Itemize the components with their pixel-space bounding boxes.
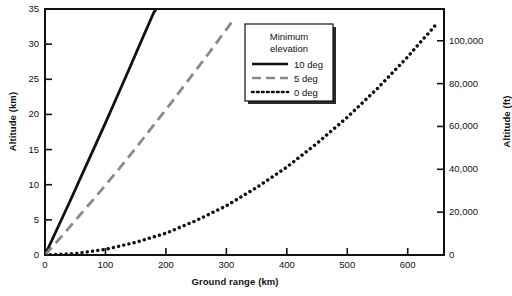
y-left-tick-label-3: 15 [9, 144, 39, 155]
y-left-tick-label-7: 35 [9, 3, 39, 14]
y-right-tick-label-2: 40,000 [449, 163, 505, 174]
legend-label-5-deg: 5 deg [294, 73, 318, 84]
y-right-tick-label-3: 60,000 [449, 120, 505, 131]
y-left-tick-label-5: 25 [9, 73, 39, 84]
x-tick-label-1: 100 [85, 259, 125, 270]
y-left-tick-label-6: 30 [9, 38, 39, 49]
y-right-tick-label-0: 0 [449, 249, 505, 260]
legend-title-line1: Minimum [270, 31, 309, 42]
y-left-tick-label-2: 10 [9, 179, 39, 190]
x-tick-label-5: 500 [327, 259, 367, 270]
legend-title-line2: elevation [270, 43, 308, 54]
x-tick-label-2: 200 [146, 259, 186, 270]
x-tick-label-0: 0 [25, 259, 65, 270]
y-left-tick-label-4: 20 [9, 108, 39, 119]
x-tick-label-3: 300 [206, 259, 246, 270]
legend: Minimum elevation 10 deg 5 deg 0 deg [245, 24, 336, 104]
x-tick-label-6: 600 [388, 259, 428, 270]
chart-figure: Altitude (km) Altitude (ft) Ground range… [0, 0, 512, 296]
plot-canvas: Minimum elevation 10 deg 5 deg 0 deg [0, 0, 512, 296]
y-right-tick-label-1: 20,000 [449, 206, 505, 217]
y-right-tick-label-5: 100,000 [449, 35, 505, 46]
y-right-tick-label-4: 80,000 [449, 78, 505, 89]
x-tick-label-4: 400 [267, 259, 307, 270]
y-left-tick-label-1: 5 [9, 214, 39, 225]
legend-label-0-deg: 0 deg [294, 87, 318, 98]
legend-label-10-deg: 10 deg [294, 59, 323, 70]
